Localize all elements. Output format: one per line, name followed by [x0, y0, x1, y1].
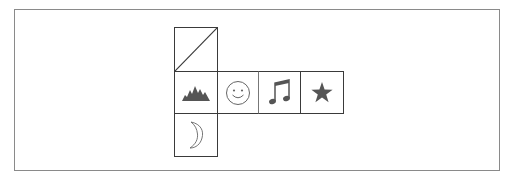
face-star [300, 71, 344, 114]
face-mountains [174, 71, 218, 114]
face-music-note [258, 71, 301, 114]
diagonal-line-icon [175, 28, 217, 71]
star-icon [311, 82, 333, 103]
mountains-icon [182, 85, 210, 101]
crescent-moon-icon [187, 121, 205, 149]
face-moon [174, 113, 218, 157]
music-note-icon [268, 79, 292, 107]
face-smiley [217, 71, 259, 114]
face-diagonal [174, 27, 218, 72]
smiley-face-icon [225, 80, 251, 106]
